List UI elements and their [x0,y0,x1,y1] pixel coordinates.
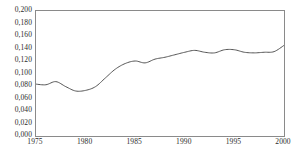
line-chart: 0,2000,1800,1600,1400,1200,1000,0800,060… [0,0,298,151]
y-axis-tick-label: 0,060 [1,94,32,102]
x-axis-tick-label: 1975 [15,137,55,146]
y-axis-tick-label: 0,180 [1,19,32,27]
series-polyline [36,45,284,91]
x-axis-tick-label: 1990 [164,137,204,146]
x-axis-tick-label: 1995 [213,137,253,146]
y-axis-tick-label: 0,160 [1,31,32,39]
plot-area [35,10,285,137]
y-axis-tick-label: 0,040 [1,106,32,114]
y-axis-tick-labels: 0,2000,1800,1600,1400,1200,1000,0800,060… [0,0,32,151]
y-axis-tick-label: 0,120 [1,56,32,64]
x-axis-tick-label: 1980 [65,137,105,146]
y-axis-tick-label: 0,080 [1,81,32,89]
series-line-series-1 [36,11,284,136]
x-axis-tick-label: 2000 [263,137,298,146]
x-axis-tick-labels: 197519801985199019952000 [0,137,298,151]
y-axis-tick-label: 0,200 [1,6,32,14]
x-axis-tick-label: 1985 [114,137,154,146]
y-axis-tick-label: 0,140 [1,44,32,52]
y-axis-tick-label: 0,020 [1,119,32,127]
y-axis-tick-label: 0,100 [1,69,32,77]
